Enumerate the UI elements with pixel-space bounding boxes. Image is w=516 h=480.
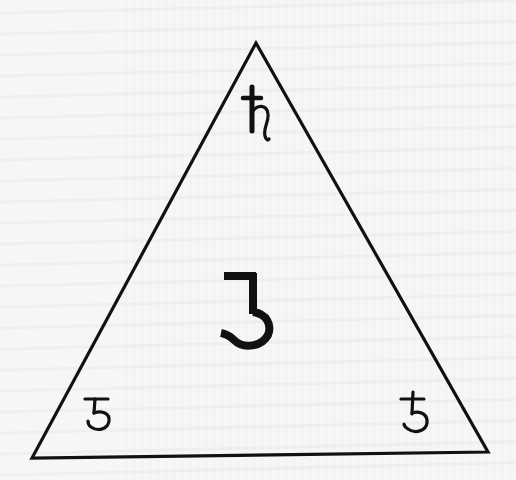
triangle-diagram <box>0 0 516 480</box>
saturn-symbol-icon <box>243 87 269 140</box>
bottom-left-ezh-symbol-icon <box>85 399 109 429</box>
bottom-right-five-symbol-icon <box>401 392 427 431</box>
center-ezh-symbol-icon <box>221 273 269 346</box>
scanned-page: ♄ ʒ ʒ ƻ <box>0 0 516 480</box>
